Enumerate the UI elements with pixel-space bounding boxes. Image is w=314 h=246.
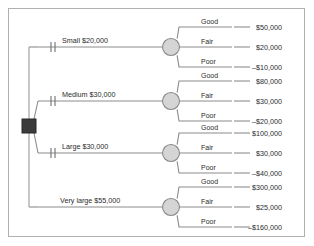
payoff-value: –$40,000	[252, 169, 282, 178]
payoff-value: $20,000	[256, 43, 282, 52]
payoff-value: $100,000	[252, 129, 282, 138]
payoff-value: –$20,000	[252, 117, 282, 126]
payoff-value: $50,000	[256, 23, 282, 32]
alternative-label-4: Very large $55,000	[60, 196, 120, 205]
state-label: Poor	[201, 58, 216, 65]
alternative-label-2: Medium $30,000	[62, 90, 116, 99]
state-label: Good	[201, 124, 218, 131]
payoff-value: $25,000	[256, 203, 282, 212]
chance-node-1[interactable]	[163, 39, 180, 56]
chance-node-2[interactable]	[163, 93, 180, 110]
payoff-value: $30,000	[256, 97, 282, 106]
payoff-value: –$160,000	[248, 223, 282, 232]
payoff-value: –$10,000	[252, 63, 282, 72]
state-label: Fair	[201, 38, 214, 45]
state-label: Poor	[201, 112, 216, 119]
state-label: Good	[201, 18, 218, 25]
decision-node[interactable]	[22, 119, 36, 133]
payoff-value: $300,000	[252, 183, 282, 192]
payoff-value: $80,000	[256, 77, 282, 86]
chance-node-4[interactable]	[163, 199, 180, 216]
alternative-label-3: Large $30,000	[62, 142, 108, 151]
state-label: Good	[201, 72, 218, 79]
state-label: Poor	[201, 164, 216, 171]
branch-connector	[34, 133, 38, 153]
state-label: Fair	[201, 144, 214, 151]
branch-connector	[34, 101, 38, 119]
decision-tree-figure: Small $20,000Good$50,000Fair$20,000Poor–…	[0, 0, 314, 246]
state-label: Fair	[201, 92, 214, 99]
chance-node-3[interactable]	[163, 145, 180, 162]
state-label: Good	[201, 178, 218, 185]
state-label: Fair	[201, 198, 214, 205]
state-label: Poor	[201, 218, 216, 225]
decision-tree-canvas: Small $20,000Good$50,000Fair$20,000Poor–…	[0, 0, 314, 246]
alternative-label-1: Small $20,000	[62, 36, 108, 45]
payoff-value: $30,000	[256, 149, 282, 158]
